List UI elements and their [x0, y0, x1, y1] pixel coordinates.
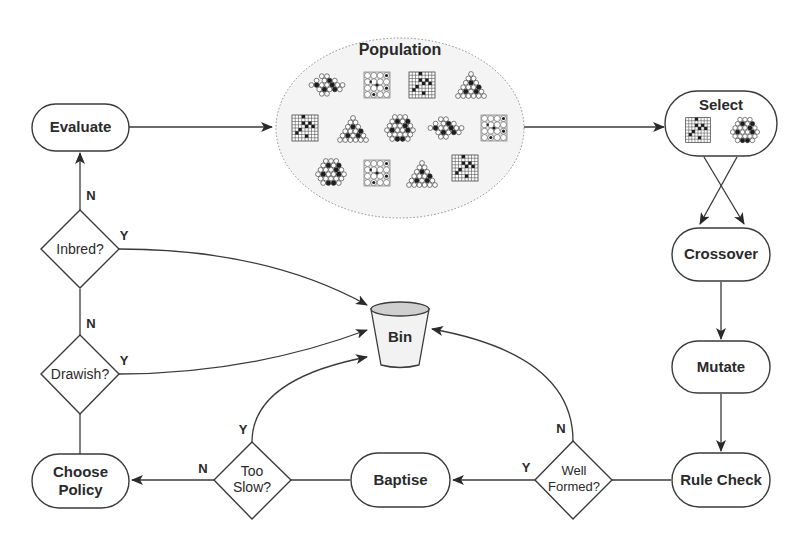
- label-well-formed-yes: Y: [522, 460, 531, 475]
- bin-rim: [371, 302, 429, 316]
- baptise-label: Baptise: [373, 471, 427, 488]
- too-slow-label-line1: Too: [241, 463, 264, 479]
- label-too-slow-no: N: [198, 461, 207, 476]
- evaluate-label: Evaluate: [50, 118, 112, 135]
- well-formed-label-line1: Well: [561, 463, 586, 478]
- label-inbred-yes: Y: [120, 228, 129, 243]
- board-square-go-icon: [364, 72, 390, 98]
- evaluate-node[interactable]: Evaluate: [32, 104, 129, 151]
- label-well-formed-no: N: [556, 421, 565, 436]
- population-node: Population: [276, 38, 524, 218]
- flowchart-diagram: N Y N Y Y N N Y Population Evalua: [0, 0, 805, 547]
- baptise-node[interactable]: Baptise: [351, 453, 450, 507]
- board-square-grid-icon: [452, 155, 478, 181]
- mutate-node[interactable]: Mutate: [672, 341, 770, 393]
- bin-node[interactable]: Bin: [371, 302, 429, 368]
- choose-policy-label-line1: Choose: [53, 463, 108, 480]
- board-square-go-icon: [481, 115, 507, 141]
- too-slow-decision[interactable]: Too Slow?: [214, 442, 291, 519]
- rule-check-node[interactable]: Rule Check: [672, 453, 770, 507]
- edge-inbred-to-bin: [119, 249, 367, 305]
- label-inbred-no: N: [86, 188, 95, 203]
- board-square-grid-icon: [292, 115, 318, 141]
- board-square-go-icon: [364, 160, 390, 186]
- well-formed-decision[interactable]: Well Formed?: [535, 441, 612, 519]
- label-drawish-no: N: [86, 316, 95, 331]
- edge-well-formed-to-bin: [432, 329, 573, 441]
- crossover-label: Crossover: [684, 245, 758, 262]
- edge-select-to-crossover-b: [700, 157, 737, 224]
- rule-check-label: Rule Check: [680, 471, 762, 488]
- select-label: Select: [699, 96, 743, 113]
- crossover-node[interactable]: Crossover: [672, 228, 770, 281]
- too-slow-label-line2: Slow?: [233, 479, 271, 495]
- inbred-label: Inbred?: [56, 241, 104, 257]
- drawish-label: Drawish?: [51, 366, 110, 382]
- edge-drawish-to-bin: [119, 330, 367, 374]
- select-node[interactable]: Select: [665, 91, 777, 156]
- choose-policy-node[interactable]: Choose Policy: [32, 454, 129, 508]
- edge-select-to-crossover-a: [704, 157, 744, 224]
- label-too-slow-yes: Y: [239, 422, 248, 437]
- inbred-decision[interactable]: Inbred?: [41, 210, 119, 288]
- select-board-square-grid-icon: [686, 118, 711, 143]
- mutate-label: Mutate: [697, 358, 745, 375]
- edge-labels: N Y N Y Y N N Y: [86, 188, 565, 476]
- bin-label: Bin: [388, 328, 412, 345]
- label-drawish-yes: Y: [120, 353, 129, 368]
- board-square-grid-icon: [409, 72, 435, 98]
- edge-too-slow-to-bin: [252, 357, 367, 442]
- population-title: Population: [359, 41, 442, 58]
- well-formed-label-line2: Formed?: [548, 479, 600, 494]
- drawish-decision[interactable]: Drawish?: [41, 335, 119, 414]
- choose-policy-label-line2: Policy: [58, 481, 103, 498]
